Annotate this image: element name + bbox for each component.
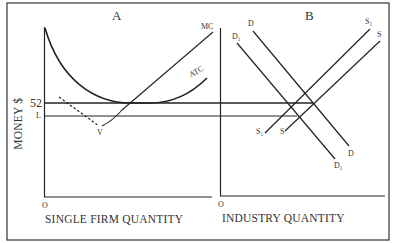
mc-curve bbox=[102, 32, 213, 126]
price-52-label: 52 bbox=[30, 97, 42, 109]
mc-label: MC bbox=[201, 23, 213, 31]
frame bbox=[7, 3, 389, 240]
v-dashed-curve bbox=[59, 97, 99, 126]
d1-top-label: D₁ bbox=[232, 33, 241, 41]
y-axis-label: MONEY $ bbox=[13, 89, 25, 159]
s1-bottom-label: S₁ bbox=[256, 128, 263, 136]
a-origin-label: O bbox=[42, 202, 48, 210]
d-top-label: D bbox=[248, 20, 254, 28]
atc-curve bbox=[45, 28, 207, 103]
a-x-axis-label: SINGLE FIRM QUANTITY bbox=[45, 214, 183, 226]
price-l-label: L bbox=[36, 112, 41, 120]
s1-top-label: S₁ bbox=[365, 18, 372, 26]
s-bottom-label: S bbox=[280, 128, 284, 136]
b-origin-label: O bbox=[218, 201, 224, 209]
demand-d1-line bbox=[237, 43, 335, 159]
v-label: V bbox=[97, 129, 103, 137]
b-x-axis-label: INDUSTRY QUANTITY bbox=[222, 213, 345, 225]
demand-d-line bbox=[253, 31, 349, 146]
d1-bottom-label: D₁ bbox=[334, 162, 343, 170]
diagram-canvas bbox=[0, 0, 395, 243]
panel-a-title: A bbox=[112, 9, 121, 22]
supply-s1-line bbox=[265, 29, 370, 133]
panel-b-title: B bbox=[305, 9, 314, 22]
s-top-label: S bbox=[377, 31, 381, 39]
d-bottom-label: D bbox=[348, 150, 354, 158]
